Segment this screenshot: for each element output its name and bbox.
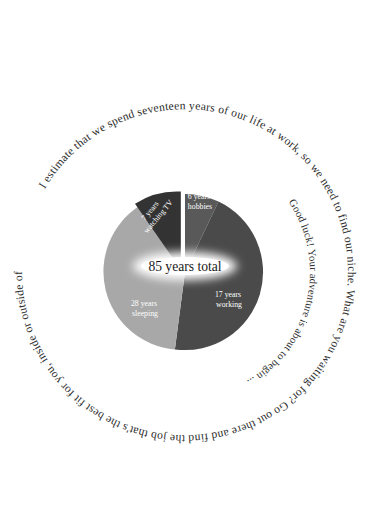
pie-label-hobbies: 6 years hobbies [188,192,212,211]
center-total-label: 85 years total [148,259,221,274]
pie-label-sleeping: 28 years sleeping [131,299,159,318]
pie-chart: 6 years hobbies 17 years working 28 year… [103,191,263,350]
pie-infographic: I estimate that we spend seventeen years… [0,0,369,514]
pie-label-working: 17 years working [215,290,243,309]
infographic-canvas: I estimate that we spend seventeen years… [0,0,369,514]
